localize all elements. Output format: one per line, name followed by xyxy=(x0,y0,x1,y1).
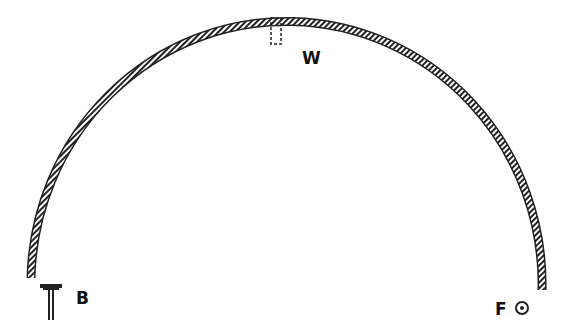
label-w: W xyxy=(302,48,321,68)
fixture-f: F xyxy=(495,299,528,319)
label-b: B xyxy=(76,288,89,308)
arch xyxy=(31,21,542,290)
diagram-canvas: W B F xyxy=(0,0,568,334)
label-f: F xyxy=(495,299,507,319)
stand-b: B xyxy=(40,284,89,320)
